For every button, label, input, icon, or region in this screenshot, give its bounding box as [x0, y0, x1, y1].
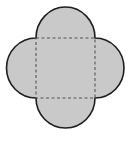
- outer-semicircle-outline: [6, 7, 124, 128]
- four-lobed-shape-diagram: [0, 0, 133, 141]
